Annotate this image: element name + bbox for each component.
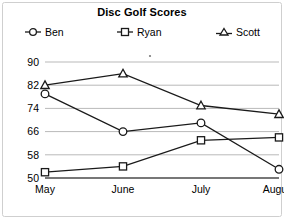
data-point-ben-may[interactable]	[41, 90, 49, 98]
data-point-ryan-july[interactable]	[197, 137, 204, 144]
x-tick-label: May	[35, 183, 56, 195]
data-point-ryan-june[interactable]	[119, 163, 126, 170]
plot-area: 505866748290MayJuneJulyAugust	[0, 0, 284, 219]
x-tick-label: August	[263, 183, 284, 195]
data-point-ryan-august[interactable]	[275, 134, 282, 141]
data-point-ryan-may[interactable]	[41, 169, 48, 176]
scan-artifact	[149, 55, 151, 57]
x-tick-label: July	[192, 183, 211, 195]
data-point-ben-august[interactable]	[275, 166, 283, 174]
data-point-scott-june[interactable]	[119, 69, 127, 77]
y-tick-label: 50	[27, 172, 39, 184]
y-tick-label: 58	[27, 149, 39, 161]
chart-container: Disc Golf Scores Ben Ryan	[0, 0, 284, 219]
y-tick-label: 90	[27, 56, 39, 68]
y-tick-label: 66	[27, 125, 39, 137]
data-point-scott-july[interactable]	[197, 101, 205, 109]
data-point-ben-june[interactable]	[119, 128, 127, 136]
data-point-ben-july[interactable]	[197, 119, 205, 127]
x-tick-label: June	[112, 183, 135, 195]
y-tick-label: 74	[27, 102, 39, 114]
y-tick-label: 82	[27, 79, 39, 91]
